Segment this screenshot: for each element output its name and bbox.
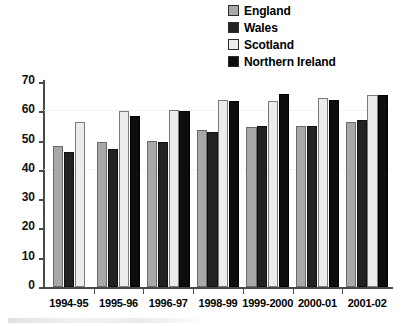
legend-label-wales: Wales	[244, 22, 278, 34]
bar-scotland	[218, 100, 228, 287]
legend-swatch-england-icon	[228, 5, 239, 16]
legend-item-wales: Wales	[228, 19, 402, 36]
legend-label-england: England	[244, 5, 291, 17]
bar-england	[246, 127, 256, 287]
bar-group	[346, 82, 389, 287]
y-axis-tick-label: 30	[22, 191, 35, 203]
y-axis-tick-label: 0	[28, 279, 35, 291]
x-axis-tick-mark	[193, 289, 194, 294]
bar-ni	[378, 95, 388, 287]
bar-scotland	[367, 95, 377, 287]
bar-wales	[357, 120, 367, 287]
x-axis-line	[43, 287, 393, 289]
y-axis-tick-label: 70	[22, 74, 35, 86]
legend-swatch-wales-icon	[228, 22, 239, 33]
bar-wales	[64, 152, 74, 287]
legend-swatch-scotland-icon	[228, 39, 239, 50]
bar-wales	[257, 126, 267, 287]
y-axis-tick-label: 40	[22, 162, 35, 174]
chart-legend: England Wales Scotland Northern Ireland	[228, 2, 402, 70]
legend-swatch-northern-ireland-icon	[228, 56, 239, 67]
legend-item-northern-ireland: Northern Ireland	[228, 53, 402, 70]
bar-england	[147, 141, 157, 287]
bar-ni	[279, 94, 289, 287]
bar-group	[53, 82, 85, 287]
bar-scotland	[75, 122, 85, 287]
legend-item-scotland: Scotland	[228, 36, 402, 53]
plot-area	[44, 82, 392, 287]
bar-group	[197, 82, 240, 287]
y-axis-tick-label: 10	[22, 250, 35, 262]
bar-group	[97, 82, 140, 287]
bar-wales	[207, 132, 217, 287]
bar-wales	[158, 142, 168, 287]
x-axis-tick-label: 1995-96	[92, 297, 146, 309]
legend-label-scotland: Scotland	[244, 39, 294, 51]
bar-england	[296, 126, 306, 287]
bar-england	[197, 130, 207, 287]
x-axis-tick-mark	[293, 289, 294, 294]
bar-england	[97, 142, 107, 287]
bar-wales	[108, 149, 118, 287]
x-axis-tick-label: 2001-02	[340, 297, 394, 309]
bar-england	[53, 146, 63, 287]
y-axis-tick-mark	[39, 287, 44, 289]
x-axis-tick-mark	[143, 289, 144, 294]
bar-scotland	[119, 111, 129, 287]
bar-ni	[179, 111, 189, 287]
x-axis-tick-label: 2000-01	[291, 297, 345, 309]
legend-label-northern-ireland: Northern Ireland	[244, 56, 336, 68]
x-axis-tick-label: 1994-95	[42, 297, 96, 309]
bar-group	[296, 82, 339, 287]
bar-group	[246, 82, 289, 287]
bar-chart: England Wales Scotland Northern Ireland …	[0, 0, 404, 326]
y-axis-tick-label: 20	[22, 220, 35, 232]
x-axis-tick-label: 1998-99	[191, 297, 245, 309]
legend-item-england: England	[228, 2, 402, 19]
x-axis-tick-label: 1999-2000	[241, 297, 295, 309]
x-axis-tick-mark	[342, 289, 343, 294]
bar-wales	[307, 126, 317, 287]
x-axis-tick-mark	[94, 289, 95, 294]
bar-scotland	[169, 110, 179, 287]
bar-ni	[130, 116, 140, 287]
y-axis-tick-label: 50	[22, 133, 35, 145]
x-axis-tick-label: 1996-97	[141, 297, 195, 309]
y-axis-tick-label: 60	[22, 103, 35, 115]
bar-ni	[229, 101, 239, 287]
bar-scotland	[268, 101, 278, 287]
bar-group	[147, 82, 190, 287]
scan-artifact	[8, 318, 198, 323]
bar-scotland	[318, 98, 328, 287]
x-axis-tick-mark	[243, 289, 244, 294]
bar-ni	[329, 100, 339, 287]
bar-england	[346, 122, 356, 287]
